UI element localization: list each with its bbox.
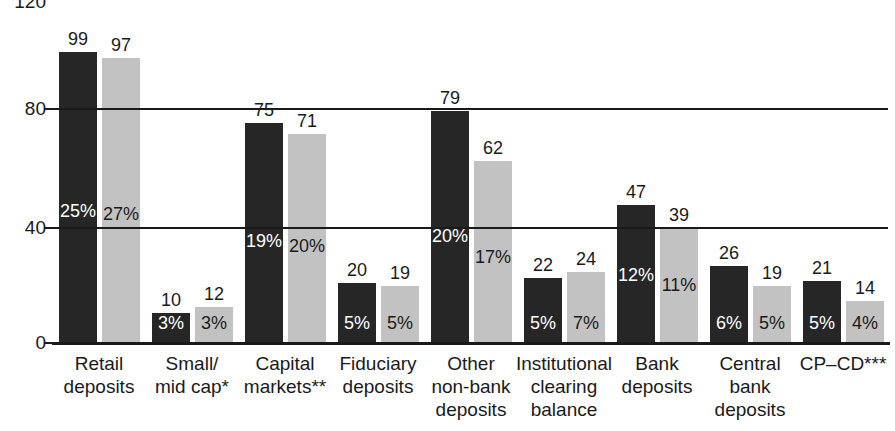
bar-percent-label: 27% bbox=[103, 205, 139, 223]
bar-value-label: 14 bbox=[855, 279, 875, 297]
bar-group: 215%144% bbox=[803, 0, 884, 342]
bar-dark: 266% bbox=[710, 266, 748, 342]
bar-group: 7920%6217% bbox=[431, 0, 512, 342]
x-axis-baseline bbox=[52, 342, 890, 345]
bar-light: 195% bbox=[753, 286, 791, 342]
bar-group: 225%247% bbox=[524, 0, 605, 342]
bar-light: 195% bbox=[381, 286, 419, 342]
y-axis-tick-40: 40 bbox=[0, 218, 46, 237]
bar-light: 7120% bbox=[288, 134, 326, 342]
bar-dark: 205% bbox=[338, 283, 376, 342]
bar-group: 205%195% bbox=[338, 0, 419, 342]
bar-percent-label: 20% bbox=[432, 227, 468, 245]
bar-value-label: 97 bbox=[111, 36, 131, 54]
bar-value-label: 26 bbox=[719, 244, 739, 262]
bar-percent-label: 11% bbox=[662, 276, 697, 294]
category-label-line: balance bbox=[502, 398, 626, 421]
y-axis-tick-80: 80 bbox=[0, 99, 46, 118]
bar-percent-label: 25% bbox=[60, 202, 96, 220]
bar-value-label: 12 bbox=[204, 285, 224, 303]
bar-value-label: 75 bbox=[254, 101, 274, 119]
bar-group: 266%195% bbox=[710, 0, 791, 342]
bar-value-label: 62 bbox=[483, 139, 503, 157]
y-axis-tick-80-label: 80 bbox=[25, 98, 46, 119]
bar-value-label: 79 bbox=[440, 89, 460, 107]
category-label-line: CP–CD*** bbox=[781, 352, 895, 375]
y-axis-tick-0: 0 bbox=[0, 333, 46, 352]
bar-value-label: 39 bbox=[669, 206, 689, 224]
bar-dark: 4712% bbox=[617, 205, 655, 342]
bar-percent-label: 4% bbox=[852, 314, 878, 332]
bar-dark: 103% bbox=[152, 313, 190, 342]
bar-group: 7519%7120% bbox=[245, 0, 326, 342]
bar-percent-label: 3% bbox=[201, 314, 227, 332]
bar-chart: 120 80 40 0 9925%9727%103%123%7519%7120%… bbox=[0, 0, 895, 431]
category-label-line: bank bbox=[688, 375, 812, 398]
bar-percent-label: 19% bbox=[246, 232, 282, 250]
bar-dark: 9925% bbox=[59, 52, 97, 342]
bar-value-label: 71 bbox=[297, 112, 317, 130]
bar-dark: 225% bbox=[524, 278, 562, 342]
bar-light: 9727% bbox=[102, 58, 140, 342]
bar-value-label: 22 bbox=[533, 256, 553, 274]
bar-percent-label: 5% bbox=[759, 314, 785, 332]
bar-value-label: 99 bbox=[68, 30, 88, 48]
bar-percent-label: 5% bbox=[809, 314, 835, 332]
bar-value-label: 10 bbox=[161, 291, 181, 309]
bar-value-label: 19 bbox=[762, 264, 782, 282]
bar-light: 3911% bbox=[660, 228, 698, 342]
bar-group: 9925%9727% bbox=[59, 0, 140, 342]
bar-light: 123% bbox=[195, 307, 233, 342]
bar-value-label: 21 bbox=[812, 259, 832, 277]
bar-percent-label: 5% bbox=[530, 314, 556, 332]
plot-area: 9925%9727%103%123%7519%7120%205%195%7920… bbox=[52, 0, 888, 342]
bar-group: 4712%3911% bbox=[617, 0, 698, 342]
bar-value-label: 24 bbox=[576, 250, 596, 268]
bar-percent-label: 7% bbox=[573, 314, 599, 332]
category-label-line: deposits bbox=[688, 398, 812, 421]
bar-percent-label: 5% bbox=[387, 314, 413, 332]
y-axis-tick-40-label: 40 bbox=[25, 217, 46, 238]
bar-percent-label: 12% bbox=[618, 266, 654, 284]
bar-group: 103%123% bbox=[152, 0, 233, 342]
bar-percent-label: 3% bbox=[158, 314, 184, 332]
bar-dark: 7519% bbox=[245, 123, 283, 342]
bar-value-label: 19 bbox=[390, 264, 410, 282]
bar-dark: 215% bbox=[803, 281, 841, 342]
bar-light: 144% bbox=[846, 301, 884, 342]
bar-light: 247% bbox=[567, 272, 605, 342]
category-label: CP–CD*** bbox=[781, 352, 895, 375]
gridline-40 bbox=[52, 227, 888, 229]
bar-percent-label: 5% bbox=[344, 314, 370, 332]
bar-percent-label: 20% bbox=[289, 237, 325, 255]
bar-percent-label: 17% bbox=[475, 248, 511, 266]
bar-percent-label: 6% bbox=[716, 314, 742, 332]
gridline-80 bbox=[52, 108, 888, 110]
bar-light: 6217% bbox=[474, 161, 512, 342]
y-axis-tick-120: 120 bbox=[0, 0, 46, 11]
bar-value-label: 47 bbox=[626, 183, 646, 201]
bar-value-label: 20 bbox=[347, 261, 367, 279]
y-axis-tick-120-label: 120 bbox=[14, 0, 46, 12]
